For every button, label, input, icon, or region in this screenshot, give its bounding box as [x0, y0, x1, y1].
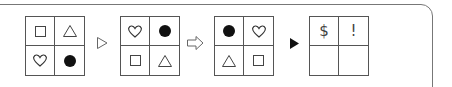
triangle-icon	[55, 17, 84, 46]
filled-circle-icon	[215, 17, 244, 46]
grid-1	[25, 16, 85, 76]
grid-3	[214, 16, 274, 76]
triangle-icon	[150, 46, 179, 75]
triangle-icon	[215, 46, 244, 75]
square-icon	[244, 46, 273, 75]
heart-icon	[244, 17, 273, 46]
hollow-block-arrow-icon	[187, 36, 204, 50]
heart-icon	[121, 17, 150, 46]
exclamation-symbol: !	[339, 17, 368, 46]
empty-cell	[310, 46, 339, 75]
grid-2	[120, 16, 180, 76]
dollar-symbol: $	[310, 17, 339, 46]
empty-cell	[339, 46, 368, 75]
heart-icon	[26, 46, 55, 75]
square-icon	[121, 46, 150, 75]
grid-4: $ !	[309, 16, 369, 76]
filled-circle-icon	[150, 17, 179, 46]
outline-triangle-arrow-icon	[97, 37, 108, 49]
filled-circle-icon	[55, 46, 84, 75]
square-icon	[26, 17, 55, 46]
filled-triangle-arrow-icon	[290, 38, 299, 49]
